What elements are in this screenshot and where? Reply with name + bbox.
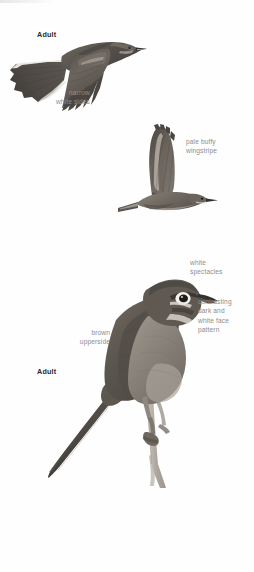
scan-artifact xyxy=(0,0,80,3)
illustration-plate: Adult narrow white sides xyxy=(0,0,254,572)
wing-raised xyxy=(149,124,175,202)
legs-and-feet xyxy=(142,396,170,446)
eye xyxy=(201,198,203,200)
eye xyxy=(128,47,130,49)
tail xyxy=(118,202,138,212)
figure-perched-bird xyxy=(20,268,220,488)
age-label-upper: Adult xyxy=(37,30,56,39)
eye xyxy=(179,295,188,303)
annotation-brown-upperside: brown upperside xyxy=(58,328,110,347)
annotation-pale-buffy-wingstripe: pale buffy wingstripe xyxy=(186,137,248,156)
bill xyxy=(206,199,218,202)
annotation-white-spectacles: white spectacles xyxy=(190,258,250,277)
age-label-lower: Adult xyxy=(37,367,56,376)
annotation-narrow-white-sides: narrow white sides xyxy=(28,88,90,107)
annotation-contrasting-face-pattern: contrasting dark and white face pattern xyxy=(198,297,254,334)
